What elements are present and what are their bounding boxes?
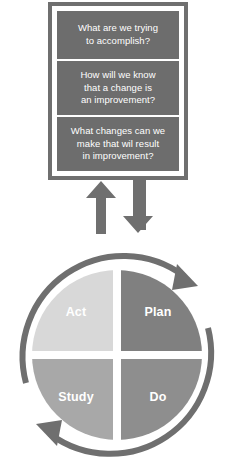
arrow-up-icon [86,181,116,234]
quadrant-label-do: Do [149,390,166,404]
question-box-aim: What are we trying to accomplish? [57,11,179,59]
pdsa-cycle: Plan Do Study Act [6,238,228,468]
question-box-changes: What changes can we make that wil result… [57,117,179,171]
arrow-down-icon [123,180,153,233]
connector-arrows [80,180,160,234]
model-for-improvement-diagram: What are we trying to accomplish? How wi… [0,0,233,468]
question-box-measures: How will we know that a change is an imp… [57,61,179,115]
quadrant-dividers [30,268,204,442]
questions-sign-board: What are we trying to accomplish? How wi… [48,2,188,180]
quadrant-label-study: Study [58,390,94,404]
quadrant-label-plan: Plan [144,305,171,319]
quadrant-label-act: Act [66,305,87,319]
